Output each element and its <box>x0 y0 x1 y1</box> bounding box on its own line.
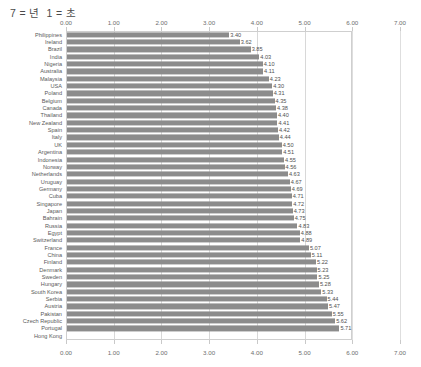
bar-value-label: 4.35 <box>274 98 287 104</box>
bottom-axis-tick-label: 4.00 <box>251 349 263 356</box>
top-axis-tick <box>257 27 258 31</box>
category-label: Hong Kong <box>34 333 62 339</box>
category-label: India <box>50 54 62 60</box>
category-label: France <box>45 245 62 251</box>
bar-row: Indonesia4.55 <box>0 156 421 163</box>
category-label: Nigeria <box>44 61 62 67</box>
category-label: Netherlands <box>32 171 62 177</box>
bar-row: UK4.50 <box>0 141 421 148</box>
bar <box>67 252 311 257</box>
bar-value-label: 4.71 <box>291 193 304 199</box>
bar-row: Portugal5.71 <box>0 325 421 332</box>
bar-row: Austria5.47 <box>0 303 421 310</box>
bar-value-label: 3.62 <box>239 39 252 45</box>
category-label: Pakistan <box>41 311 62 317</box>
bar-value-label: 4.38 <box>275 105 288 111</box>
bar-value-label: 5.25 <box>316 274 329 280</box>
bar-row: China5.11 <box>0 251 421 258</box>
bar-row: Germany4.69 <box>0 185 421 192</box>
bar <box>67 326 339 331</box>
bar <box>67 194 292 199</box>
bar-row: Thailand4.40 <box>0 112 421 119</box>
bar-row: South Korea5.33 <box>0 288 421 295</box>
bottom-axis-tick <box>114 340 115 344</box>
bar-row: Spain4.42 <box>0 126 421 133</box>
bar-row: Brazil3.85 <box>0 46 421 53</box>
top-axis-tick-label: 7.00 <box>394 19 406 26</box>
category-label: Finland <box>44 259 62 265</box>
bottom-axis-tick <box>400 340 401 344</box>
bar <box>67 47 251 52</box>
category-label: Czech Republic <box>23 318 62 324</box>
bar-value-label: 5.62 <box>334 318 347 324</box>
bar-value-label: 5.55 <box>331 311 344 317</box>
bottom-axis-tick <box>352 340 353 344</box>
bar <box>67 135 279 140</box>
category-label: Philippines <box>35 32 62 38</box>
bar-value-label: 4.75 <box>293 215 306 221</box>
bar-value-label: 4.56 <box>284 164 297 170</box>
category-label: Portugal <box>41 325 62 331</box>
category-label: Austria <box>45 303 62 309</box>
bar <box>67 208 293 213</box>
bar-value-label: 5.47 <box>327 303 340 309</box>
bar <box>67 201 292 206</box>
bar-value-label: 4.50 <box>281 142 294 148</box>
bar-row: Ireland3.62 <box>0 38 421 45</box>
bar <box>67 296 327 301</box>
bar-value-label: 5.71 <box>338 325 351 331</box>
top-axis-tick-label: 4.00 <box>251 19 263 26</box>
category-label: Belgium <box>42 98 62 104</box>
bar-row: Sweden5.25 <box>0 273 421 280</box>
bar-value-label: 5.28 <box>318 281 331 287</box>
category-label: Spain <box>48 127 62 133</box>
bar <box>67 186 291 191</box>
category-label: Australia <box>40 68 62 74</box>
bar-row: Canada4.38 <box>0 104 421 111</box>
bar-row: Nigeria4.10 <box>0 60 421 67</box>
bar <box>67 282 319 287</box>
bar <box>67 172 288 177</box>
bar-row: Norway4.56 <box>0 163 421 170</box>
bar <box>67 274 317 279</box>
bottom-axis-tick-label: 7.00 <box>394 349 406 356</box>
bar-row: Switzerland4.89 <box>0 237 421 244</box>
bar <box>67 120 277 125</box>
bar <box>67 39 240 44</box>
category-label: Singapore <box>36 201 62 207</box>
bar-row: Denmark5.23 <box>0 266 421 273</box>
bar-value-label: 4.72 <box>291 201 304 207</box>
category-label: Uruguay <box>41 179 62 185</box>
bar-row: Czech Republic5.62 <box>0 317 421 324</box>
bottom-axis-tick <box>209 340 210 344</box>
category-label: Switzerland <box>33 237 62 243</box>
bar-value-label: 5.11 <box>310 252 322 258</box>
bar-row: Russia4.83 <box>0 222 421 229</box>
bar-row: Bahrain4.75 <box>0 215 421 222</box>
bar <box>67 106 276 111</box>
bar-row: Argentina4.51 <box>0 149 421 156</box>
bar <box>67 319 335 324</box>
category-label: Sweden <box>42 274 62 280</box>
bar-value-label: 3.40 <box>228 32 241 38</box>
bar <box>67 142 282 147</box>
bottom-axis-tick <box>66 340 67 344</box>
bottom-axis-tick-label: 2.00 <box>155 349 167 356</box>
category-label: Malaysia <box>40 76 62 82</box>
bar-row: Uruguay4.67 <box>0 178 421 185</box>
bar-chart: Philippines3.40Ireland3.62Brazil3.85Indi… <box>0 0 421 367</box>
bar-value-label: 4.30 <box>271 83 284 89</box>
bar-value-label: 5.33 <box>320 289 333 295</box>
top-axis-tick-label: 1.00 <box>108 19 120 26</box>
bar-row: India4.03 <box>0 53 421 60</box>
bar <box>67 304 328 309</box>
bar <box>67 216 294 221</box>
bottom-axis-tick-label: 1.00 <box>108 349 120 356</box>
bar-value-label: 4.40 <box>276 112 289 118</box>
top-axis-tick-label: 2.00 <box>155 19 167 26</box>
bar-value-label: 4.10 <box>262 61 275 67</box>
bar-row: Belgium4.35 <box>0 97 421 104</box>
top-axis-tick <box>66 27 67 31</box>
bar-row: Serbia5.44 <box>0 295 421 302</box>
bar-row: Australia4.11 <box>0 68 421 75</box>
